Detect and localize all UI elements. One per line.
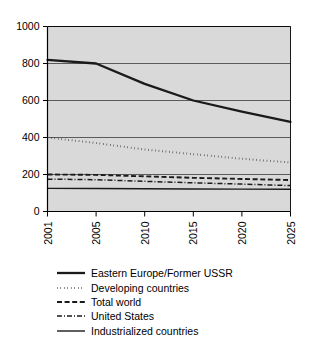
y-axis-ticks: 02004006008001000 [16,20,47,217]
chart-legend: Eastern Europe/Former USSRDeveloping cou… [56,266,306,338]
x-tick-label: 2001 [42,221,54,245]
legend-item: United States [56,309,306,323]
legend-item: Total world [56,295,306,309]
legend-label: Eastern Europe/Former USSR [91,267,233,279]
series-line [48,188,291,189]
y-tick-label: 200 [22,168,40,180]
x-tick-label: 2015 [187,221,199,245]
legend-line-swatch [56,310,86,322]
legend-label: Developing countries [91,282,189,294]
legend-line-swatch [56,282,86,294]
y-tick-label: 1000 [16,20,40,32]
legend-label: Total world [91,296,141,308]
x-tick-label: 2010 [139,221,151,245]
x-tick-label: 2005 [90,221,102,245]
legend-label: United States [91,310,154,322]
x-axis-ticks: 200120052010201520202025 [42,212,297,245]
plot-bg-rect [48,27,291,212]
y-tick-label: 600 [22,94,40,106]
legend-label: Industrialized countries [91,325,198,337]
legend-line-swatch [56,296,86,308]
legend-item: Industrialized countries [56,324,306,338]
y-tick-label: 400 [22,131,40,143]
plot-background [48,27,291,212]
y-tick-label: 0 [34,205,40,217]
legend-line-swatch [56,267,86,279]
legend-item: Eastern Europe/Former USSR [56,266,306,280]
x-tick-label: 2025 [285,221,297,245]
x-tick-label: 2020 [236,221,248,245]
legend-line-swatch [56,325,86,337]
line-chart-figure: 02004006008001000 2001200520102015202020… [0,0,309,344]
y-tick-label: 800 [22,57,40,69]
legend-item: Developing countries [56,280,306,294]
